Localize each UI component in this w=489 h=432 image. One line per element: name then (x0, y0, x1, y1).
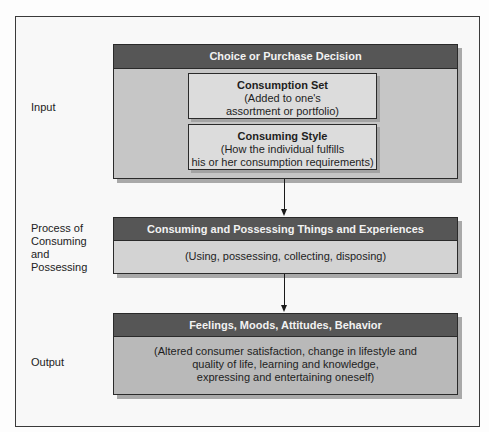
label-process-line-4: Possessing (31, 261, 87, 274)
output-line-1: (Altered consumer satisfaction, change i… (114, 345, 457, 358)
consumption-set-box: Consumption Set (Added to one's assortme… (188, 73, 377, 119)
output-line-2: quality of life, learning and knowledge, (114, 358, 457, 371)
label-process: Process of Consuming and Possessing (31, 222, 87, 274)
label-input: Input (31, 101, 55, 114)
arrow-down-icon (281, 209, 287, 216)
consumption-set-title: Consumption Set (189, 79, 376, 92)
consuming-style-line-2: his or her consumption requirements) (189, 156, 376, 169)
arrow-2-line (284, 274, 285, 306)
output-line-3: expressing and entertaining oneself) (114, 371, 457, 384)
arrow-down-icon (281, 305, 287, 312)
stage-output-header: Feelings, Moods, Attitudes, Behavior (114, 314, 457, 337)
stage-process-box: Consuming and Possessing Things and Expe… (113, 217, 458, 274)
label-process-line-2: Consuming (31, 235, 87, 248)
consumption-set-line-2: assortment or portfolio) (189, 105, 376, 118)
stage-choice-box: Choice or Purchase Decision Consumption … (113, 44, 458, 179)
consuming-style-box: Consuming Style (How the individual fulf… (188, 124, 377, 170)
label-output: Output (31, 356, 64, 369)
label-process-line-3: and (31, 248, 87, 261)
stage-output-body: (Altered consumer satisfaction, change i… (114, 337, 457, 394)
stage-output-box: Feelings, Moods, Attitudes, Behavior (Al… (113, 313, 458, 395)
stage-choice-header: Choice or Purchase Decision (114, 45, 457, 69)
consumption-set-line-1: (Added to one's (189, 92, 376, 105)
consuming-style-line-1: (How the individual fulfills (189, 143, 376, 156)
label-process-line-1: Process of (31, 222, 87, 235)
stage-process-body: (Using, possessing, collecting, disposin… (114, 241, 457, 273)
arrow-1-line (284, 179, 285, 210)
stage-process-header: Consuming and Possessing Things and Expe… (114, 218, 457, 241)
consuming-style-title: Consuming Style (189, 130, 376, 143)
stage-choice-body: Consumption Set (Added to one's assortme… (114, 69, 457, 178)
